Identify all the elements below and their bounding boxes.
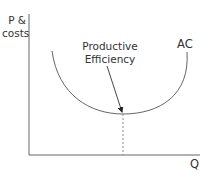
y-axis-label-line1: P & [2,14,26,27]
ac-curve-label: AC [177,38,193,51]
productive-efficiency-label: Productive Efficiency [80,40,140,66]
annotation-arrow [107,66,122,112]
annotation-line1: Productive [80,40,140,53]
y-axis-label-line2: costs [2,27,26,40]
y-axis-label: P & costs [2,14,26,40]
annotation-line2: Efficiency [80,53,140,66]
x-axis-label: Q [190,158,199,171]
diagram-canvas [0,0,215,185]
